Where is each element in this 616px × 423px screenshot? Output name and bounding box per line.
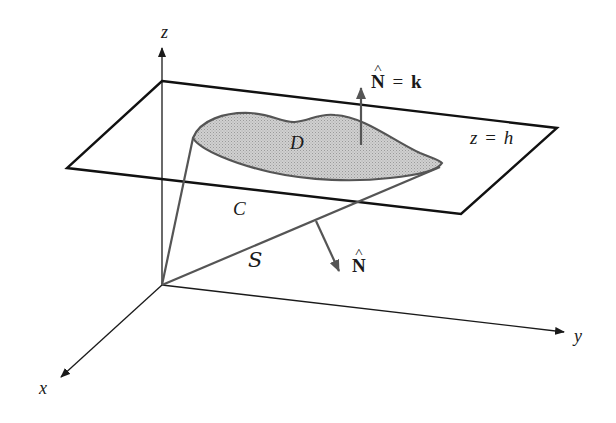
normal-side-symbol: N — [352, 256, 366, 275]
x-axis-label: x — [39, 379, 47, 397]
surface-s-label: S — [248, 250, 262, 271]
plane-label-var: z — [470, 127, 477, 148]
normal-side-label: N — [352, 256, 366, 275]
curve-c-label: C — [233, 199, 246, 218]
y-axis-label: y — [574, 327, 582, 345]
normal-top-symbol: N — [371, 72, 385, 91]
z-axis-label: z — [161, 23, 168, 41]
plane-label-eq: = — [485, 127, 496, 148]
region-d — [193, 113, 442, 180]
normal-top-label: N = k — [371, 72, 422, 91]
region-d-label: D — [290, 133, 304, 152]
normal-top-value: k — [411, 71, 422, 92]
x-axis — [61, 285, 162, 377]
plane-label-val: h — [504, 127, 514, 148]
normal-side-arrow — [316, 221, 339, 271]
cone-left-line — [162, 138, 193, 285]
normal-top-eq: = — [392, 71, 403, 92]
plane-label: z = h — [470, 128, 513, 147]
diagram-canvas — [0, 0, 616, 423]
y-axis — [162, 285, 564, 332]
